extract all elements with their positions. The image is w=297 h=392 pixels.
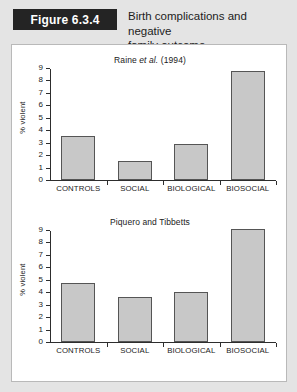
- y-axis-tick-label: 0: [39, 175, 43, 184]
- y-axis-tick: 3: [46, 143, 50, 144]
- bar-controls: [61, 136, 95, 180]
- y-axis-tick: 3: [46, 305, 50, 306]
- y-axis-tick: 1: [46, 168, 50, 169]
- y-axis-tick-label: 3: [39, 300, 43, 309]
- y-axis-tick-label: 2: [39, 150, 43, 159]
- y-axis-tick: 5: [46, 280, 50, 281]
- y-axis-tick: 7: [46, 255, 50, 256]
- y-axis-tick-label: 4: [39, 125, 43, 134]
- y-axis-tick: 2: [46, 317, 50, 318]
- x-axis-label-biological: BIOLOGICAL: [163, 184, 220, 193]
- y-axis-tick: 2: [46, 155, 50, 156]
- bar-chart-0: Raine et al. (1994)% violent0123456789CO…: [12, 55, 288, 211]
- bar-biosocial: [231, 229, 265, 342]
- y-axis-tick-label: 9: [39, 63, 43, 72]
- x-axis-labels: CONTROLSSOCIALBIOLOGICALBIOSOCIAL: [50, 184, 276, 196]
- x-axis-label-biosocial: BIOSOCIAL: [220, 184, 277, 193]
- figure-number-tag: Figure 6.3.4: [13, 9, 117, 30]
- figure-caption-line1: Birth complications and negative: [128, 10, 247, 37]
- plot-area: 0123456789: [50, 231, 276, 343]
- y-axis-line: [50, 231, 51, 343]
- y-axis-tick-label: 1: [39, 163, 43, 172]
- y-axis-tick-label: 7: [39, 250, 43, 259]
- x-axis-label-controls: CONTROLS: [50, 346, 107, 355]
- x-axis-labels: CONTROLSSOCIALBIOLOGICALBIOSOCIAL: [50, 346, 276, 358]
- chart-title: Piquero and Tibbetts: [12, 217, 288, 227]
- y-axis-tick-label: 6: [39, 262, 43, 271]
- y-axis-tick-label: 3: [39, 138, 43, 147]
- bar-social: [118, 297, 152, 342]
- x-axis-label-social: SOCIAL: [107, 184, 164, 193]
- y-axis-label: % violent: [18, 90, 27, 146]
- plot-area: 0123456789: [50, 69, 276, 181]
- figure-panel: Raine et al. (1994)% violent0123456789CO…: [11, 44, 287, 382]
- y-axis-tick: 7: [46, 93, 50, 94]
- y-axis-tick: 5: [46, 118, 50, 119]
- y-axis-tick: 8: [46, 80, 50, 81]
- y-axis-tick-label: 5: [39, 113, 43, 122]
- y-axis-tick-label: 4: [39, 287, 43, 296]
- y-axis-tick: 9: [46, 230, 50, 231]
- y-axis-tick-label: 0: [39, 337, 43, 346]
- chart-title: Raine et al. (1994): [12, 55, 288, 65]
- y-axis-tick-label: 8: [39, 237, 43, 246]
- y-axis-line: [50, 69, 51, 181]
- y-axis-tick: 0: [46, 342, 50, 343]
- y-axis-tick-label: 6: [39, 100, 43, 109]
- bar-controls: [61, 283, 95, 342]
- y-axis-tick-label: 9: [39, 225, 43, 234]
- x-axis-label-controls: CONTROLS: [50, 184, 107, 193]
- x-axis-label-social: SOCIAL: [107, 346, 164, 355]
- bar-biological: [174, 144, 208, 180]
- y-axis-tick: 1: [46, 330, 50, 331]
- bar-social: [118, 161, 152, 180]
- y-axis-tick: 6: [46, 267, 50, 268]
- y-axis-label: % violent: [18, 252, 27, 308]
- y-axis-tick: 4: [46, 292, 50, 293]
- y-axis-tick-label: 7: [39, 88, 43, 97]
- y-axis-tick: 6: [46, 105, 50, 106]
- x-axis-tick-end: [276, 181, 277, 185]
- bar-biosocial: [231, 71, 265, 181]
- x-axis-label-biological: BIOLOGICAL: [163, 346, 220, 355]
- y-axis-tick-label: 1: [39, 325, 43, 334]
- x-axis-label-biosocial: BIOSOCIAL: [220, 346, 277, 355]
- bar-chart-1: Piquero and Tibbetts% violent0123456789C…: [12, 217, 288, 375]
- y-axis-tick-label: 2: [39, 312, 43, 321]
- y-axis-tick-label: 8: [39, 75, 43, 84]
- y-axis-tick: 4: [46, 130, 50, 131]
- y-axis-tick: 8: [46, 242, 50, 243]
- bar-biological: [174, 292, 208, 342]
- x-axis-tick-end: [276, 343, 277, 347]
- y-axis-tick: 0: [46, 180, 50, 181]
- y-axis-tick: 9: [46, 68, 50, 69]
- y-axis-tick-label: 5: [39, 275, 43, 284]
